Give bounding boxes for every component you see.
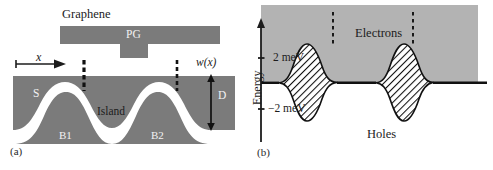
- island-label: Island: [97, 106, 125, 118]
- drain-label: D: [218, 90, 226, 102]
- energy-axis-label: Energy: [251, 71, 263, 105]
- holes-region-label: Holes: [367, 128, 396, 141]
- energy-tick-negative-label: −2 meV: [268, 103, 305, 115]
- energy-tick-positive-label: 2 meV: [273, 52, 304, 64]
- panel-b-tag: (b): [257, 147, 270, 158]
- x-axis-label: x: [36, 51, 41, 63]
- panel-a-device-schematic: [0, 0, 247, 170]
- barrier-b1-label: B1: [59, 130, 72, 141]
- width-function-label: w(x): [196, 57, 216, 69]
- source-label: S: [33, 88, 39, 100]
- panel-a-tag: (a): [10, 146, 22, 157]
- graphene-label: Graphene: [62, 8, 111, 21]
- plunger-gate-label: PG: [126, 29, 141, 41]
- barrier-b2-label: B2: [151, 130, 164, 141]
- electrons-region-label: Electrons: [355, 27, 402, 40]
- figure-root: Graphene PG S D Island B1 B2 x w(x) (a): [0, 0, 493, 170]
